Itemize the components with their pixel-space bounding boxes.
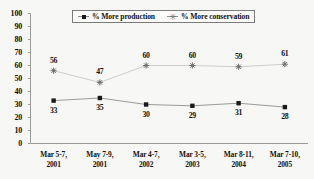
y-axis-tick-label: 80 [5,35,22,44]
y-axis-tick-label: 60 [5,61,22,70]
data-point-value-label: 29 [180,111,204,120]
x-axis-tick-label-line: 2002 [123,160,169,170]
data-point-marker-star [51,68,57,74]
data-point-value-label: 60 [180,51,204,60]
line-chart: 1009080706050403020100 Mar 5-7,2001May 7… [0,0,314,179]
y-axis-tick-label: 0 [5,139,22,148]
x-axis-tick-label: Mar 5-7,2001 [31,150,77,169]
data-point-marker-star [282,61,288,67]
y-axis-tick-label: 30 [5,100,22,109]
chart-legend: % More production✳% More conservation [72,10,255,23]
y-axis-tick-label: 10 [5,126,22,135]
data-point-marker-square [190,104,194,108]
x-axis-tick-label-line: Mar 5-7, [31,150,77,160]
x-axis-tick-label-line: Mar 8-11, [216,150,262,160]
data-point-value-label: 30 [134,110,158,119]
data-point-marker-square [51,98,55,102]
star-marker-icon: ✳ [167,7,178,25]
x-axis-tick-label-line: May 7-9, [77,150,123,160]
x-axis-tick-label: Mar 3-5,2003 [169,150,215,169]
y-axis-tick-label: 70 [5,48,22,57]
x-axis-tick-label: May 7-9,2001 [77,150,123,169]
legend-item-conservation[interactable]: ✳% More conservation [167,7,249,25]
data-point-marker-star [236,64,242,70]
y-axis-tick-label: 40 [5,87,22,96]
x-axis-tick-label: Mar 4-7,2002 [123,150,169,169]
data-point-value-label: 60 [134,51,158,60]
legend-item-production[interactable]: % More production [78,7,155,25]
x-axis-tick-label: Mar 8-11,2004 [216,150,262,169]
data-point-marker-star [97,79,103,85]
data-point-value-label: 56 [42,56,66,65]
data-point-marker-star [189,62,195,68]
data-point-marker-star [143,62,149,68]
x-axis-tick-label-line: 2005 [262,160,308,170]
series-markers [51,61,288,109]
y-axis-tick-label: 90 [5,22,22,31]
legend-item-label: % More conservation [181,12,249,21]
x-axis-tick-label-line: 2004 [216,160,262,170]
square-marker-icon [78,7,89,25]
y-axis-tick-label: 100 [5,9,22,18]
data-point-value-label: 33 [42,106,66,115]
x-axis-tick-label-line: 2001 [77,160,123,170]
x-axis-tick-label: Mar 7-10,2005 [262,150,308,169]
data-point-marker-square [144,102,148,106]
data-point-value-label: 61 [273,49,297,58]
x-axis-tick-label-line: 2001 [31,160,77,170]
x-axis-tick-label-line: Mar 3-5, [169,150,215,160]
data-point-marker-square [98,96,102,100]
legend-item-label: % More production [92,12,155,21]
x-axis-tick-label-line: Mar 7-10, [262,150,308,160]
data-point-value-label: 47 [88,67,112,76]
data-point-value-label: 59 [227,52,251,61]
x-axis-tick-label-line: 2003 [169,160,215,170]
data-point-value-label: 28 [273,112,297,121]
y-axis-tick-label: 20 [5,113,22,122]
x-axis-tick-label-line: Mar 4-7, [123,150,169,160]
data-point-value-label: 31 [227,108,251,117]
data-point-marker-square [236,101,240,105]
data-point-value-label: 35 [88,103,112,112]
y-axis-tick-label: 50 [5,74,22,83]
data-point-marker-square [283,105,287,109]
